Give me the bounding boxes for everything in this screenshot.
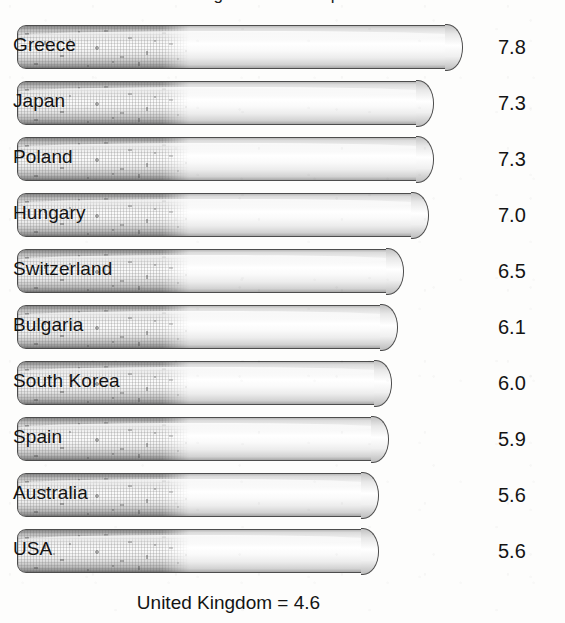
cigarette-bar xyxy=(17,25,462,69)
bar-category-label: Australia xyxy=(13,471,88,515)
bar-category-label: Hungary xyxy=(13,191,86,235)
bar-row: Poland7.3 xyxy=(0,135,565,191)
bar-rounded-tip xyxy=(361,528,379,575)
bar-body xyxy=(17,529,378,573)
bar-category-label: South Korea xyxy=(13,359,120,403)
bar-row: Hungary7.0 xyxy=(0,191,565,247)
bar-category-label: Japan xyxy=(13,79,65,123)
bar-value-label: 6.5 xyxy=(498,249,526,293)
bar-rounded-tip xyxy=(411,192,429,239)
cigarette-bar xyxy=(17,137,433,181)
bar-row: Spain5.9 xyxy=(0,415,565,471)
cigarette-consumption-chart: Cigarette consumption Greece7.8Japan7.3P… xyxy=(0,0,565,623)
bar-rows: Greece7.8Japan7.3Poland7.3Hungary7.0Swit… xyxy=(0,23,565,583)
bar-rounded-tip xyxy=(374,360,392,407)
bar-row: Japan7.3 xyxy=(0,79,565,135)
bar-row: Australia5.6 xyxy=(0,471,565,527)
bar-highlight xyxy=(20,143,426,152)
bar-rounded-tip xyxy=(416,80,434,127)
bar-body xyxy=(17,25,462,69)
bar-highlight xyxy=(20,423,381,432)
bar-value-label: 5.6 xyxy=(498,473,526,517)
bar-highlight xyxy=(20,535,371,544)
bar-highlight xyxy=(20,31,455,40)
bar-row: Bulgaria6.1 xyxy=(0,303,565,359)
bar-body xyxy=(17,137,433,181)
bar-category-label: Greece xyxy=(13,23,76,67)
chart-title-cropped: Cigarette consumption xyxy=(0,0,565,9)
bar-rounded-tip xyxy=(380,304,398,351)
bar-body xyxy=(17,81,433,125)
bar-row: Greece7.8 xyxy=(0,23,565,79)
bar-value-label: 5.9 xyxy=(498,417,526,461)
bar-category-label: Bulgaria xyxy=(13,303,84,347)
bar-category-label: Poland xyxy=(13,135,73,179)
bar-rounded-tip xyxy=(361,472,379,519)
bar-value-label: 7.0 xyxy=(498,193,526,237)
bar-body xyxy=(17,417,388,461)
bar-category-label: Spain xyxy=(13,415,62,459)
bar-rounded-tip xyxy=(371,416,389,463)
cigarette-bar xyxy=(17,529,378,573)
bar-row: USA5.6 xyxy=(0,527,565,583)
bar-rounded-tip xyxy=(386,248,404,295)
cigarette-bar xyxy=(17,81,433,125)
bar-row: Switzerland6.5 xyxy=(0,247,565,303)
bar-row: South Korea6.0 xyxy=(0,359,565,415)
bar-category-label: USA xyxy=(13,527,52,571)
cigarette-bar xyxy=(17,417,388,461)
bar-value-label: 7.8 xyxy=(498,25,526,69)
bar-rounded-tip xyxy=(416,136,434,183)
bar-category-label: Switzerland xyxy=(13,247,112,291)
bar-value-label: 7.3 xyxy=(498,137,526,181)
bar-highlight xyxy=(20,87,426,96)
chart-title: Cigarette consumption xyxy=(0,0,565,5)
bar-rounded-tip xyxy=(445,24,463,71)
bar-value-label: 7.3 xyxy=(498,81,526,125)
bar-value-label: 5.6 xyxy=(498,529,526,573)
footnote: United Kingdom = 4.6 xyxy=(0,592,565,614)
bar-value-label: 6.1 xyxy=(498,305,526,349)
bar-value-label: 6.0 xyxy=(498,361,526,405)
